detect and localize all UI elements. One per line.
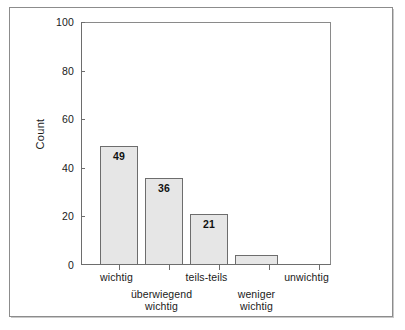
x-label-unwichtig: unwichtig [267,271,347,284]
bar-value-ueberwiegend-wichtig: 36 [145,182,183,194]
y-tick-mark-100 [81,22,85,23]
y-tick-label-20: 20 [0,210,74,222]
x-label-ueberwiegend-wichtig-line1: überwiegend [117,288,207,301]
y-tick-label-80: 80 [0,65,74,77]
bar-value-teils-teils: 21 [190,218,228,230]
x-tick-mark-4 [319,265,320,270]
y-tick-mark-40 [81,168,85,169]
bar-chart: Count 100 80 60 40 20 0 49 36 21 wichtig… [0,0,405,330]
y-tick-label-100: 100 [0,16,74,28]
bar-wichtig [100,146,138,265]
x-label-weniger-wichtig-line1: weniger [217,288,297,301]
bar-value-wichtig: 49 [100,150,138,162]
y-tick-mark-60 [81,119,85,120]
x-tick-mark-2 [219,265,220,270]
x-label-ueberwiegend-wichtig-line2: wichtig [117,300,207,313]
y-tick-mark-80 [81,71,85,72]
y-tick-mark-20 [81,216,85,217]
x-label-teils-teils: teils-teils [167,271,247,284]
bar-weniger-wichtig [235,255,278,265]
y-tick-label-60: 60 [0,113,74,125]
x-tick-mark-3 [269,265,270,270]
x-label-wichtig: wichtig [77,271,157,284]
x-label-weniger-wichtig-line2: wichtig [217,300,297,313]
y-tick-label-0: 0 [0,259,74,271]
x-tick-mark-0 [119,265,120,270]
y-tick-label-40: 40 [0,162,74,174]
x-tick-mark-1 [169,265,170,270]
